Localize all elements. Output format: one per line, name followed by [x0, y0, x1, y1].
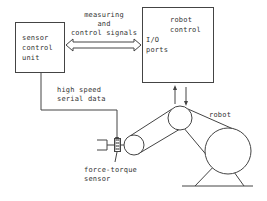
serial-data-line — [41, 73, 117, 140]
label-line: control signals — [65, 29, 143, 37]
label-line: I/O — [146, 36, 168, 44]
robot-label: robot — [209, 111, 231, 119]
label-line: sensor — [22, 34, 53, 42]
serial-link-label: high speed serial data — [57, 86, 106, 103]
label-line: control — [22, 44, 53, 52]
force-torque-sensor-label: force-torque sensor — [84, 166, 137, 183]
force-torque-sensor-block — [115, 139, 121, 152]
forearm-edge-top — [130, 109, 172, 136]
label-line: measuring — [65, 11, 143, 19]
robot-base-leg-right — [234, 172, 244, 186]
signals-link-label: measuring and control signals — [65, 11, 143, 37]
label-line: serial data — [57, 95, 106, 103]
robot-control-label: robot control — [170, 16, 201, 34]
shoulder-joint — [205, 128, 251, 174]
label-line: robot — [170, 16, 201, 24]
up-arrow-head — [173, 85, 177, 90]
label-line: unit — [22, 54, 53, 62]
down-arrow-head — [184, 101, 188, 106]
elbow-joint — [168, 106, 192, 130]
sensor-control-unit-label: sensor control unit — [22, 34, 53, 62]
sensor-label-pointer — [115, 152, 117, 162]
label-line: control — [170, 26, 201, 34]
io-ports-label: I/O ports — [146, 36, 168, 54]
label-line: sensor — [84, 175, 137, 183]
robot-arm — [120, 106, 253, 186]
forearm-edge-bottom — [138, 129, 180, 154]
label-line: force-torque — [84, 166, 137, 174]
label-line: and — [65, 20, 143, 28]
gripper-icon — [97, 140, 114, 150]
bidirectional-signal-arrow — [66, 39, 141, 51]
label-line: ports — [146, 46, 168, 54]
label-line: high speed — [57, 86, 106, 94]
wrist-joint — [124, 135, 144, 155]
